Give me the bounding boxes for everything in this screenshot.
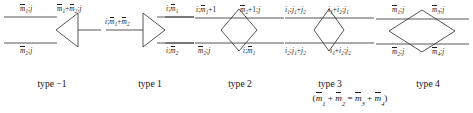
label-type-2-bottom-left: m2;j <box>198 47 210 54</box>
caption-type-3: type 3 <box>300 78 360 89</box>
caption-constraint: (m1 + m2 = m3 + m4) <box>285 93 415 105</box>
figure-canvas: m1;j m2;j m1+m2;j i;m1+m2 i;m1 i;m2 <box>0 0 473 113</box>
label-type-minus-1-right: m1+m2;j <box>57 5 82 12</box>
label-type-4-top-left: m1;j <box>392 6 404 13</box>
label-type-3-bottom-right: i1+i2;j2 <box>330 47 351 54</box>
label-type-minus-1-bottom-left: m2;j <box>20 47 32 54</box>
caption-type-2: type 2 <box>210 78 270 89</box>
diagram-type-minus-1 <box>0 0 104 60</box>
label-type-2-bottom-right: i;m1 <box>243 47 255 54</box>
label-type-1-bottom-right: i;m2 <box>166 47 178 54</box>
label-type-2-top-right: m2+1;j <box>240 6 260 13</box>
type-minus-1-graphic <box>0 0 104 60</box>
type-1-graphic <box>104 0 196 60</box>
label-type-4-bottom-right: m4;j <box>432 48 444 55</box>
label-type-minus-1-top-left: m1;j <box>20 5 32 12</box>
caption-type-4: type 4 <box>398 78 458 89</box>
label-type-3-top-left: i1;j1+j2 <box>285 6 306 13</box>
label-type-1-left: i;m1+m2 <box>105 18 130 25</box>
label-type-1-top-right: i;m1 <box>166 5 178 12</box>
diagram-type-4 <box>373 0 473 60</box>
type-4-graphic <box>373 0 473 60</box>
label-type-4-top-right: m3;j <box>432 6 444 13</box>
label-type-3-top-right: i1+i2;j1 <box>328 6 349 13</box>
label-type-2-top-left: i;m1+1 <box>196 6 216 13</box>
caption-type-1: type 1 <box>120 78 180 89</box>
diagram-type-1 <box>104 0 196 60</box>
label-type-4-bottom-left: m2;j <box>392 48 404 55</box>
caption-type-minus-1: type −1 <box>22 78 82 89</box>
label-type-3-bottom-left: i2;j1+j2 <box>285 47 306 54</box>
